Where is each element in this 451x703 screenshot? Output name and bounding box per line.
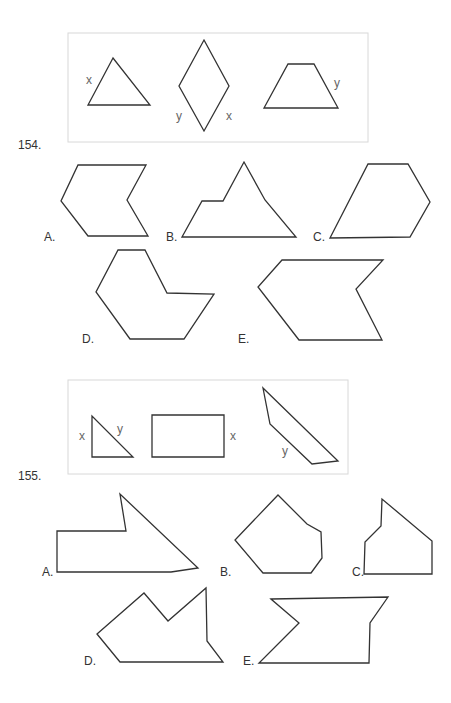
side-label: x (230, 430, 236, 442)
option-label[interactable]: E. (238, 333, 249, 345)
problem-number: 154. (18, 139, 41, 151)
answer-shape-c[interactable] (330, 164, 430, 238)
side-label: y (334, 77, 340, 89)
example-shape (264, 64, 338, 108)
answer-shape-d[interactable] (97, 588, 223, 662)
option-label[interactable]: A. (42, 566, 53, 578)
answer-shape-b[interactable] (182, 162, 296, 237)
figure-canvas (0, 0, 451, 703)
example-shape (92, 416, 133, 457)
example-box-154 (68, 33, 368, 142)
example-shape (263, 388, 338, 464)
option-label[interactable]: C. (313, 231, 325, 243)
option-label[interactable]: C. (352, 566, 364, 578)
side-label: y (117, 423, 123, 435)
side-label: x (79, 430, 85, 442)
answer-shape-a[interactable] (61, 165, 148, 236)
side-label: y (176, 110, 182, 122)
answer-shape-b[interactable] (235, 495, 322, 573)
answer-shape-d[interactable] (96, 250, 214, 339)
option-label[interactable]: E. (243, 655, 254, 667)
example-box-155 (68, 380, 348, 474)
side-label: x (86, 74, 92, 86)
side-label: y (282, 445, 288, 457)
option-label[interactable]: B. (166, 231, 177, 243)
answer-shape-e[interactable] (259, 597, 388, 663)
option-label[interactable]: B. (220, 566, 231, 578)
side-label: x (226, 110, 232, 122)
problem-number: 155. (18, 470, 41, 482)
option-label[interactable]: A. (44, 231, 55, 243)
example-shape (88, 58, 150, 105)
option-label[interactable]: D. (82, 333, 94, 345)
example-shape (152, 415, 224, 457)
answer-shape-a[interactable] (57, 494, 198, 572)
example-shape (179, 40, 229, 131)
answer-shape-c[interactable] (364, 499, 432, 574)
option-label[interactable]: D. (84, 655, 96, 667)
answer-shape-e[interactable] (258, 260, 383, 340)
